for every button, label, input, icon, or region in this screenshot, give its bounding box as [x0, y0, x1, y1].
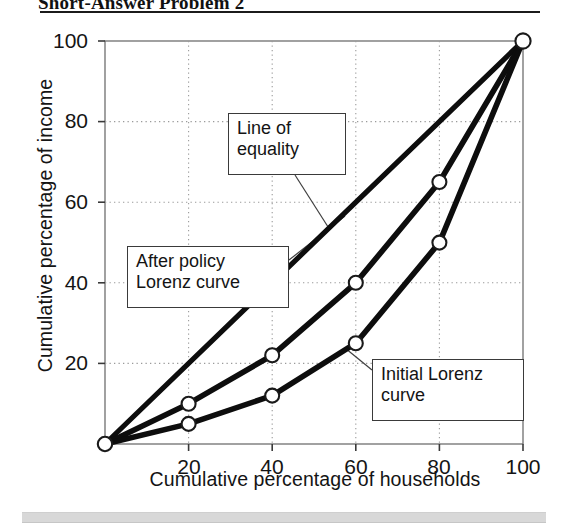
marker-initial-20	[182, 417, 196, 431]
annotation-initial-lorenz-curve: Initial Lorenz curve	[372, 359, 524, 421]
marker-100-100	[515, 33, 530, 48]
marker-initial-40	[265, 389, 279, 403]
marker-origin	[98, 437, 112, 451]
annotation-line-of-equality: Line of equality	[228, 113, 346, 175]
footer-divider-band	[22, 512, 546, 523]
marker-after-60	[349, 276, 363, 290]
marker-initial-60	[349, 336, 363, 350]
y-tick-label-100: 100	[30, 29, 88, 53]
x-axis-title: Cumulative percentage of households	[105, 468, 525, 491]
marker-after-20	[182, 397, 196, 411]
title-divider	[40, 11, 540, 13]
lorenz-curve-figure: 100 80 60 40 20 20 40 60 80 100 Cumulati…	[0, 18, 562, 498]
marker-after-80	[432, 175, 446, 189]
y-axis-title: Cumulative percentage of income	[34, 61, 57, 391]
marker-initial-80	[432, 236, 446, 250]
marker-after-40	[265, 348, 279, 362]
annotation-after-policy-lorenz-curve: After policy Lorenz curve	[127, 246, 289, 308]
